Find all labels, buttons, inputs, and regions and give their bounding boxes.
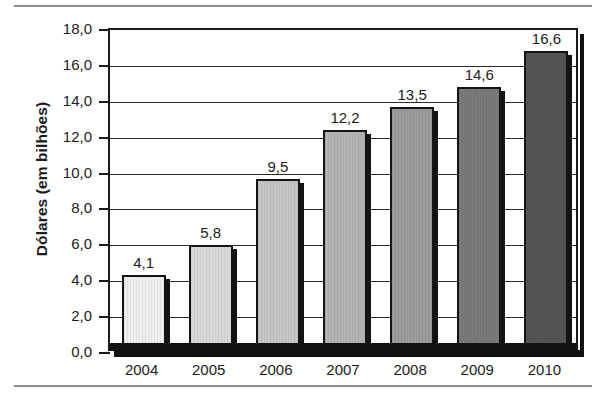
y-axis-tick-label: 12,0 (36, 128, 92, 143)
y-axis-tick-label: 18,0 (36, 21, 92, 36)
bar-2007[interactable] (323, 130, 367, 349)
bar-2008[interactable] (390, 107, 434, 349)
y-axis-tick-label: 8,0 (36, 200, 92, 215)
x-axis-label-2008: 2008 (377, 362, 444, 377)
x-axis-baseline (110, 343, 576, 350)
y-axis-tick (99, 352, 110, 354)
bar-slot: 13,5 (390, 30, 434, 349)
bar-value-label: 12,2 (323, 110, 367, 125)
x-axis-label-2005: 2005 (175, 362, 242, 377)
bar-value-label: 14,6 (457, 67, 501, 82)
bar-value-label: 16,6 (524, 31, 568, 46)
bar-slot: 5,8 (189, 30, 233, 349)
bar-2009[interactable] (457, 87, 501, 349)
bar-2004[interactable] (122, 275, 166, 349)
bar-chart-figure: Dólares (em bilhões) 4,15,89,512,213,514… (0, 0, 607, 402)
y-axis-tick-label: 4,0 (36, 272, 92, 287)
plot-area: 4,15,89,512,213,514,616,6 (108, 28, 578, 351)
y-axis-tick (99, 280, 110, 282)
x-axis-label-2007: 2007 (309, 362, 376, 377)
bar-2005[interactable] (189, 245, 233, 349)
y-axis-tick-label: 10,0 (36, 164, 92, 179)
y-axis-tick (99, 208, 110, 210)
bar-value-label: 4,1 (122, 255, 166, 270)
y-axis-tick-label: 6,0 (36, 236, 92, 251)
bar-value-label: 13,5 (390, 87, 434, 102)
y-axis-tick (99, 137, 110, 139)
y-axis-tick (99, 101, 110, 103)
bar-slot: 4,1 (122, 30, 166, 349)
y-axis-tick-label: 2,0 (36, 308, 92, 323)
y-axis-tick (99, 65, 110, 67)
bar-value-label: 9,5 (256, 159, 300, 174)
x-axis-label-2004: 2004 (108, 362, 175, 377)
y-axis-tick (99, 244, 110, 246)
y-axis-tick-label: 16,0 (36, 56, 92, 71)
bar-value-label: 5,8 (189, 225, 233, 240)
bar-2010[interactable] (524, 51, 568, 349)
x-axis-label-2010: 2010 (511, 362, 578, 377)
y-axis-tick (99, 316, 110, 318)
bar-slot: 9,5 (256, 30, 300, 349)
y-axis-tick-label: 0,0 (36, 344, 92, 359)
plot-inner: 4,15,89,512,213,514,616,6 (110, 30, 576, 349)
y-axis-tick (99, 173, 110, 175)
y-axis-tick-label: 14,0 (36, 92, 92, 107)
x-axis-label-2006: 2006 (242, 362, 309, 377)
baseline-shadow (114, 350, 580, 354)
bar-slot: 12,2 (323, 30, 367, 349)
y-axis-tick (99, 29, 110, 31)
bar-slot: 14,6 (457, 30, 501, 349)
bar-2006[interactable] (256, 179, 300, 349)
x-axis-label-2009: 2009 (444, 362, 511, 377)
bar-slot: 16,6 (524, 30, 568, 349)
